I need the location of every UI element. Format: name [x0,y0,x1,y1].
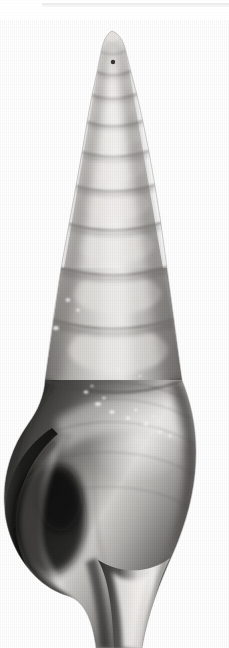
photo-plate: Grayscale photograph of a tall, slender,… [0,0,229,648]
shell-specimen-illustration [0,0,229,648]
shell-specimen [0,0,229,648]
spire [45,30,182,396]
apex-pit [111,60,115,64]
